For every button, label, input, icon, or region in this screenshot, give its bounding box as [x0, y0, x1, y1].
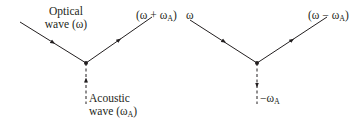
- left-outgoing-label: (ω + ωA): [136, 9, 177, 22]
- vertex-dot: [255, 61, 259, 65]
- right-acoustic-label: −ωA: [260, 92, 280, 105]
- left-incoming-label: Optical wave (ω): [36, 5, 96, 31]
- left-acoustic-label: Acoustic wave (ωA): [89, 92, 137, 118]
- vertex-dot: [84, 61, 88, 65]
- right-diagram: [190, 17, 327, 104]
- right-incoming-label: ω: [186, 9, 194, 22]
- right-outgoing-label: (ω − ωA): [308, 9, 349, 22]
- incoming-optical-wave-line: [190, 20, 257, 63]
